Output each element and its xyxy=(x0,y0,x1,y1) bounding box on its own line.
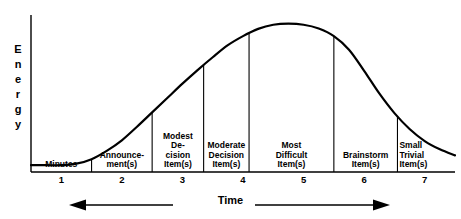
segment-label: Brainstorm Item(s) xyxy=(336,151,396,170)
segment-label: Small Trivial Item(s) xyxy=(399,141,453,170)
x-tick-label: 6 xyxy=(361,174,366,185)
time-axis-row: Time xyxy=(0,192,461,219)
segment-label-band: MinutesAnnounce- ment(s)Modest De- cisio… xyxy=(31,131,455,172)
energy-vs-time-chart: E n e r g y MinutesAnnounce- ment(s)Mode… xyxy=(0,0,461,219)
segment-label: Most Difficult Item(s) xyxy=(251,141,332,170)
segment-label: Modest De- cision Item(s) xyxy=(154,132,201,170)
x-tick-label: 1 xyxy=(59,174,64,185)
x-tick-label-row: 1234567 xyxy=(31,174,455,190)
x-tick-label: 2 xyxy=(119,174,124,185)
x-tick-label: 4 xyxy=(240,174,245,185)
x-tick-label: 5 xyxy=(301,174,306,185)
x-tick-label: 3 xyxy=(180,174,185,185)
x-axis-title: Time xyxy=(0,192,461,208)
segment-label: Moderate Decision Item(s) xyxy=(206,141,247,170)
segment-label: Announce- ment(s) xyxy=(94,151,151,170)
segment-label: Minutes xyxy=(33,160,90,170)
x-tick-label: 7 xyxy=(422,174,427,185)
